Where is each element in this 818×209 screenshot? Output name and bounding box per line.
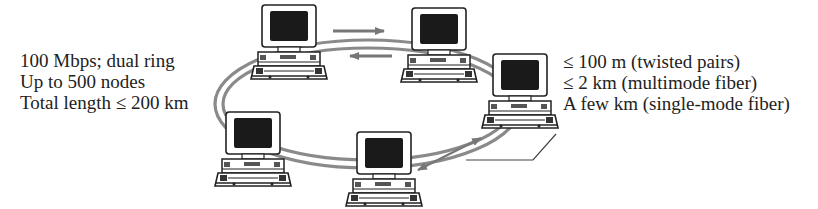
workstation-node-bottom-icon bbox=[346, 132, 422, 206]
twisted-pair-distance-label: ≤ 100 m (twisted pairs) bbox=[563, 51, 790, 72]
workstation-node-top-right-icon bbox=[401, 8, 477, 82]
multimode-fiber-distance-label: ≤ 2 km (multimode fiber) bbox=[563, 72, 790, 93]
spec-speed-label: 100 Mbps; dual ring bbox=[20, 50, 188, 71]
workstation-node-top-left-icon bbox=[251, 5, 327, 79]
spec-nodes-label: Up to 500 nodes bbox=[20, 71, 188, 92]
workstation-node-left-icon bbox=[215, 112, 291, 186]
workstation-node-right-icon bbox=[482, 54, 558, 128]
single-mode-fiber-distance-label: A few km (single-mode fiber) bbox=[563, 93, 790, 114]
network-specs-label: 100 Mbps; dual ring Up to 500 nodes Tota… bbox=[20, 50, 188, 113]
link-distance-label: ≤ 100 m (twisted pairs) ≤ 2 km (multimod… bbox=[563, 51, 790, 114]
spec-length-label: Total length ≤ 200 km bbox=[20, 92, 188, 113]
